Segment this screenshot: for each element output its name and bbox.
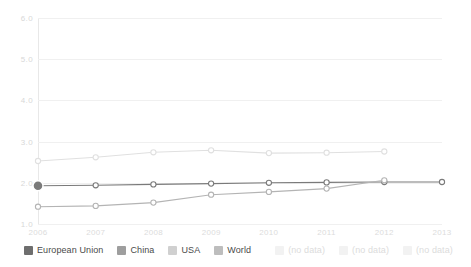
legend-item[interactable]: (no data)	[403, 245, 453, 255]
legend-swatch-icon	[403, 246, 412, 255]
data-point-marker[interactable]	[151, 200, 156, 205]
legend-item-label: (no data)	[288, 245, 325, 255]
legend-item-label: China	[130, 245, 154, 255]
legend-swatch-icon	[117, 246, 126, 255]
legend-item[interactable]: (no data)	[275, 245, 325, 255]
x-tick-label: 2008	[144, 228, 163, 237]
x-tick-label: 2006	[29, 228, 48, 237]
legend-item[interactable]: (no data)	[339, 245, 389, 255]
legend-item-label: (no data)	[416, 245, 453, 255]
gridline	[38, 224, 442, 225]
legend-item[interactable]: European Union	[24, 245, 103, 255]
y-tick-label: 2.0	[21, 178, 33, 187]
data-point-marker[interactable]	[93, 183, 98, 188]
data-point-marker[interactable]	[93, 155, 98, 160]
data-point-marker[interactable]	[324, 150, 329, 155]
legend-item-label: World	[227, 245, 251, 255]
x-tick-label: 2007	[86, 228, 105, 237]
legend-swatch-icon	[24, 246, 33, 255]
y-tick-label: 6.0	[21, 14, 33, 23]
chart-page: 6.05.04.03.02.01.0 200620072008200920102…	[0, 0, 471, 267]
data-point-marker[interactable]	[439, 179, 444, 184]
data-point-marker[interactable]	[209, 192, 214, 197]
x-tick-label: 2013	[433, 228, 452, 237]
legend-item[interactable]: China	[117, 245, 154, 255]
chart-legend: European UnionChinaUSAWorld(no data)(no …	[24, 243, 467, 257]
data-point-marker[interactable]	[35, 158, 40, 163]
legend-item-label: USA	[181, 245, 200, 255]
data-point-marker[interactable]	[324, 186, 329, 191]
data-point-marker[interactable]	[266, 180, 271, 185]
legend-swatch-icon	[339, 246, 348, 255]
data-point-marker[interactable]	[266, 151, 271, 156]
y-tick-label: 5.0	[21, 55, 33, 64]
data-point-marker[interactable]	[382, 178, 387, 183]
y-tick-label: 4.0	[21, 96, 33, 105]
data-point-marker[interactable]	[266, 189, 271, 194]
data-point-marker[interactable]	[35, 204, 40, 209]
series-lines	[38, 18, 442, 224]
data-point-marker[interactable]	[151, 150, 156, 155]
highlighted-data-point[interactable]	[33, 181, 43, 191]
x-tick-label: 2011	[317, 228, 335, 237]
legend-item-label: European Union	[37, 245, 103, 255]
legend-swatch-icon	[275, 246, 284, 255]
data-point-marker[interactable]	[209, 148, 214, 153]
data-point-marker[interactable]	[324, 180, 329, 185]
legend-swatch-icon	[214, 246, 223, 255]
data-point-marker[interactable]	[382, 149, 387, 154]
plot-area: 6.05.04.03.02.01.0 200620072008200920102…	[38, 18, 442, 224]
legend-swatch-icon	[168, 246, 177, 255]
x-tick-label: 2009	[202, 228, 221, 237]
data-point-marker[interactable]	[93, 203, 98, 208]
data-point-marker[interactable]	[209, 181, 214, 186]
legend-item[interactable]: USA	[168, 245, 200, 255]
legend-item-label: (no data)	[352, 245, 389, 255]
x-tick-label: 2012	[375, 228, 394, 237]
data-point-marker[interactable]	[151, 182, 156, 187]
legend-item[interactable]: World	[214, 245, 251, 255]
y-tick-label: 3.0	[21, 137, 33, 146]
x-tick-label: 2010	[259, 228, 278, 237]
